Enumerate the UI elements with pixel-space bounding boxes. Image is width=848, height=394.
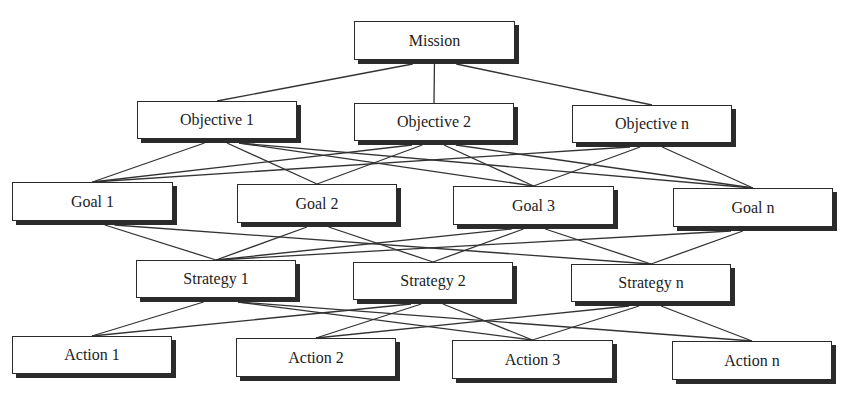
node-label: Goal 2 <box>295 195 338 213</box>
node-label: Strategy 2 <box>400 272 465 290</box>
node-action-1: Action 1 <box>12 336 172 374</box>
connector-line <box>217 64 413 101</box>
node-action-2: Action 2 <box>236 338 396 377</box>
node-label: Strategy n <box>618 274 683 292</box>
connector-line <box>216 231 731 260</box>
hierarchy-diagram: Mission Objective 1 Objective 2 Objectiv… <box>0 0 848 394</box>
connector-line <box>93 145 413 182</box>
connector-line <box>651 231 743 264</box>
node-label: Goal n <box>731 199 774 217</box>
node-label: Objective n <box>615 115 689 133</box>
node-label: Mission <box>409 32 461 50</box>
node-label: Action 3 <box>505 351 561 369</box>
node-action-3: Action 3 <box>452 340 613 379</box>
node-strategy-2: Strategy 2 <box>353 262 513 300</box>
node-objective-2: Objective 2 <box>354 103 514 141</box>
node-objective-n: Objective n <box>572 105 732 143</box>
connector-line <box>239 143 753 188</box>
node-goal-n: Goal n <box>673 188 833 227</box>
connector-line <box>93 147 631 182</box>
node-label: Objective 2 <box>397 113 471 131</box>
node-label: Goal 3 <box>512 197 555 215</box>
node-mission: Mission <box>354 21 515 60</box>
node-label: Strategy 1 <box>183 270 248 288</box>
connector-line <box>533 306 640 340</box>
node-objective-1: Objective 1 <box>137 101 297 139</box>
node-label: Goal 1 <box>71 193 114 211</box>
node-label: Objective 1 <box>180 111 254 129</box>
node-label: Action 1 <box>64 346 120 364</box>
node-strategy-n: Strategy n <box>571 264 731 302</box>
node-label: Action n <box>724 352 780 370</box>
node-action-n: Action n <box>672 341 832 380</box>
node-goal-1: Goal 1 <box>12 182 173 221</box>
connector-line <box>92 304 411 336</box>
node-goal-2: Goal 2 <box>237 184 397 223</box>
node-label: Action 2 <box>288 349 344 367</box>
connector-line <box>105 225 216 260</box>
connector-line <box>545 229 651 264</box>
connector-line <box>456 64 652 105</box>
connector-line <box>329 227 433 262</box>
node-strategy-1: Strategy 1 <box>136 260 296 298</box>
node-goal-3: Goal 3 <box>453 186 614 225</box>
connector-line <box>316 306 629 338</box>
